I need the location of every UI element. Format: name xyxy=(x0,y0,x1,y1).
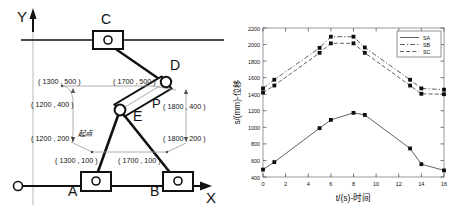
y-tick-label: 800 xyxy=(251,141,260,147)
coord-label-1700-500: ( 1700 , 500 ) xyxy=(113,77,156,86)
construction-ticks xyxy=(61,85,189,154)
data-point-SC xyxy=(272,84,276,88)
y-tick-label: 1000 xyxy=(248,125,260,131)
data-point-SC xyxy=(419,92,423,96)
x-axis-label: X xyxy=(206,189,216,206)
legend-label-SB: SB xyxy=(423,42,431,48)
y-tick-label: 1600 xyxy=(248,75,260,81)
data-point-SA xyxy=(352,111,356,115)
data-point-SC xyxy=(318,51,322,55)
y-tick-label: 1800 xyxy=(248,59,260,65)
series-line-SA xyxy=(263,113,444,171)
y-axis-title: s/(mm)-位移 xyxy=(232,80,242,124)
data-point-SB xyxy=(329,35,333,39)
coord-label-1700-100: ( 1700 , 100 ) xyxy=(118,156,161,165)
joint-block-a xyxy=(81,172,111,191)
data-point-SC xyxy=(329,41,333,45)
joint-label-a: A xyxy=(68,183,78,199)
legend-label-SC: SC xyxy=(423,49,431,55)
x-tick-label: 4 xyxy=(307,181,310,187)
y-tick-label: 2000 xyxy=(248,42,260,48)
link-e-a xyxy=(95,110,120,180)
y-tick-label: 1200 xyxy=(248,108,260,114)
origin-marker xyxy=(14,182,23,191)
data-point-SA xyxy=(408,147,412,151)
coord-label-1300-500: ( 1300 , 500 ) xyxy=(38,77,81,86)
joint-pin-e xyxy=(115,105,126,116)
coord-label-1800-400: ( 1800 , 400 ) xyxy=(163,102,206,111)
data-point-SB xyxy=(363,46,367,50)
coord-label-1200-200: ( 1200 , 200 ) xyxy=(31,134,74,143)
x-tick-label: 2 xyxy=(284,181,287,187)
data-point-SC xyxy=(352,41,356,45)
x-tick-label: 14 xyxy=(418,181,424,187)
joint-block-c xyxy=(93,31,123,49)
data-point-SA xyxy=(419,162,423,166)
joint-label-c: C xyxy=(101,11,111,27)
chart-svg: 4006008001000120014001600180020002200024… xyxy=(225,0,450,217)
start-point-annotation: 起点 xyxy=(78,129,94,138)
data-point-SA xyxy=(261,168,265,172)
y-tick-label: 400 xyxy=(251,175,260,181)
coord-label-1300-100: ( 1300 , 100 ) xyxy=(55,156,98,165)
legend-box xyxy=(397,31,441,57)
x-axis-title: t/(s)-时间 xyxy=(336,192,372,203)
data-point-SA xyxy=(318,126,322,130)
legend-label-SA: SA xyxy=(423,35,431,41)
x-tick-label: 10 xyxy=(373,181,379,187)
data-point-SB xyxy=(261,87,265,91)
y-axis-arrowhead xyxy=(30,8,37,19)
coord-label-1200-400: ( 1200 , 400 ) xyxy=(31,100,74,109)
data-point-SB xyxy=(442,88,446,92)
joint-label-p: P xyxy=(152,96,161,111)
data-point-SB xyxy=(318,46,322,50)
joint-block-b xyxy=(163,172,193,191)
data-point-SC xyxy=(363,51,367,55)
data-point-SA xyxy=(442,168,446,172)
data-point-SB xyxy=(408,78,412,82)
x-tick-label: 0 xyxy=(261,181,264,187)
mechanism-svg: Y X O xyxy=(0,0,225,217)
data-point-SB xyxy=(352,35,356,39)
data-point-SB xyxy=(419,87,423,91)
data-point-SC xyxy=(408,84,412,88)
displacement-time-chart: 4006008001000120014001600180020002200024… xyxy=(225,0,450,217)
joint-pin-d xyxy=(161,77,171,87)
y-tick-label: 2200 xyxy=(248,26,260,32)
x-tick-label: 6 xyxy=(329,181,332,187)
data-point-SA xyxy=(363,113,367,117)
x-tick-label: 12 xyxy=(396,181,402,187)
data-point-SC xyxy=(442,92,446,96)
data-point-SC xyxy=(261,91,265,95)
y-axis-label: Y xyxy=(17,8,27,25)
link-e-b xyxy=(120,110,176,180)
data-point-SA xyxy=(329,118,333,122)
joint-label-e: E xyxy=(133,108,142,124)
data-point-SA xyxy=(272,160,276,164)
mechanism-linkage-diagram: Y X O xyxy=(0,0,225,217)
figure-root: Y X O xyxy=(0,0,450,217)
coord-label-1800-200: ( 1800 , 200 ) xyxy=(163,134,206,143)
x-tick-label: 16 xyxy=(441,181,447,187)
data-point-SB xyxy=(272,78,276,82)
joint-label-d: D xyxy=(170,57,180,73)
joint-label-b: B xyxy=(150,183,159,199)
y-tick-label: 1400 xyxy=(248,92,260,98)
y-tick-label: 600 xyxy=(251,158,260,164)
x-tick-label: 8 xyxy=(352,181,355,187)
